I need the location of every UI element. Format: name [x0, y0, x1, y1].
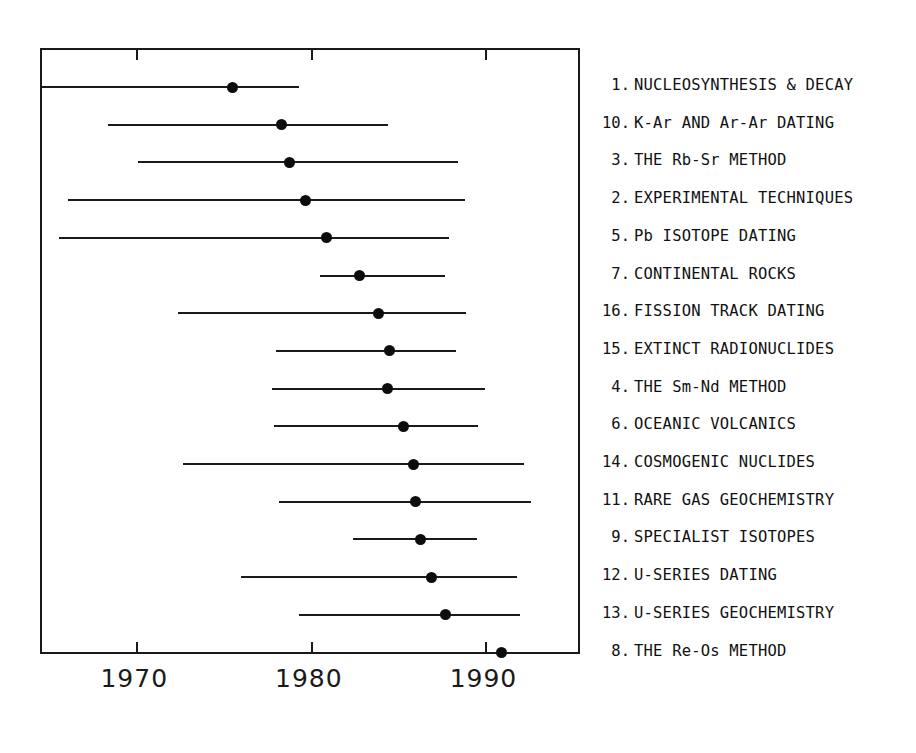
- range-whisker: [68, 199, 464, 201]
- plot-area: [42, 50, 578, 652]
- range-whisker: [276, 350, 456, 352]
- legend-label-row: 14.COSMOGENIC NUCLIDES: [596, 453, 906, 471]
- legend-item-label: EXPERIMENTAL TECHNIQUES: [630, 189, 853, 207]
- legend-item-label: SPECIALIST ISOTOPES: [630, 528, 815, 546]
- legend-item-number: 8.: [596, 642, 630, 660]
- legend-item-label: U-SERIES GEOCHEMISTRY: [630, 604, 834, 622]
- legend-label-row: 6.OCEANIC VOLCANICS: [596, 415, 906, 433]
- legend-item-label: THE Sm-Nd METHOD: [630, 378, 787, 396]
- range-whisker: [274, 425, 478, 427]
- legend-label-row: 9.SPECIALIST ISOTOPES: [596, 528, 906, 546]
- x-axis-tick-label: 1970: [100, 664, 168, 693]
- x-axis-tick: [485, 642, 487, 652]
- median-marker: [384, 345, 395, 356]
- legend-item-number: 14.: [596, 453, 630, 471]
- x-axis-tick-top: [311, 50, 313, 60]
- legend-item-label: Pb ISOTOPE DATING: [630, 227, 796, 245]
- legend-item-number: 13.: [596, 604, 630, 622]
- median-marker: [227, 82, 238, 93]
- range-whisker: [279, 501, 530, 503]
- range-whisker: [138, 161, 458, 163]
- x-axis-tick-label: 1990: [450, 664, 518, 693]
- median-marker: [398, 421, 409, 432]
- median-marker: [354, 270, 365, 281]
- legend-label-row: 4.THE Sm-Nd METHOD: [596, 378, 906, 396]
- legend-label-row: 5.Pb ISOTOPE DATING: [596, 227, 906, 245]
- legend-item-number: 12.: [596, 566, 630, 584]
- legend-label-row: 8.THE Re-Os METHOD: [596, 642, 906, 660]
- legend-item-number: 1.: [596, 76, 630, 94]
- range-whisker: [183, 463, 523, 465]
- legend-label-row: 1.NUCLEOSYNTHESIS & DECAY: [596, 76, 906, 94]
- range-whisker: [272, 388, 485, 390]
- legend-label-row: 2.EXPERIMENTAL TECHNIQUES: [596, 189, 906, 207]
- legend-item-label: CONTINENTAL ROCKS: [630, 265, 796, 283]
- range-whisker: [416, 652, 543, 654]
- median-marker: [276, 119, 287, 130]
- legend-item-number: 11.: [596, 491, 630, 509]
- legend-item-number: 10.: [596, 114, 630, 132]
- legend-label-row: 7.CONTINENTAL ROCKS: [596, 265, 906, 283]
- legend-label-row: 13.U-SERIES GEOCHEMISTRY: [596, 604, 906, 622]
- median-marker: [426, 572, 437, 583]
- x-axis-tick: [311, 642, 313, 652]
- range-whisker: [320, 275, 446, 277]
- range-whisker: [59, 237, 448, 239]
- plot-frame: [40, 48, 580, 654]
- median-marker: [415, 534, 426, 545]
- legend-item-number: 6.: [596, 415, 630, 433]
- median-marker: [410, 496, 421, 507]
- legend-item-number: 4.: [596, 378, 630, 396]
- legend-item-label: NUCLEOSYNTHESIS & DECAY: [630, 76, 853, 94]
- median-marker: [408, 459, 419, 470]
- median-marker: [440, 609, 451, 620]
- chart-legend-labels: 1.NUCLEOSYNTHESIS & DECAY10.K-Ar AND Ar-…: [596, 48, 906, 654]
- legend-item-label: RARE GAS GEOCHEMISTRY: [630, 491, 834, 509]
- x-axis-tick: [136, 642, 138, 652]
- median-marker: [321, 232, 332, 243]
- range-whisker: [178, 312, 466, 314]
- legend-item-number: 2.: [596, 189, 630, 207]
- legend-label-row: 12.U-SERIES DATING: [596, 566, 906, 584]
- median-marker: [284, 157, 295, 168]
- range-whisker: [299, 614, 521, 616]
- legend-label-row: 10.K-Ar AND Ar-Ar DATING: [596, 114, 906, 132]
- legend-item-number: 16.: [596, 302, 630, 320]
- legend-item-label: OCEANIC VOLCANICS: [630, 415, 796, 433]
- legend-item-label: THE Rb-Sr METHOD: [630, 151, 787, 169]
- legend-item-label: THE Re-Os METHOD: [630, 642, 787, 660]
- legend-label-row: 15.EXTINCT RADIONUCLIDES: [596, 340, 906, 358]
- legend-item-number: 9.: [596, 528, 630, 546]
- legend-item-number: 7.: [596, 265, 630, 283]
- median-marker: [300, 195, 311, 206]
- x-axis-tick-top: [136, 50, 138, 60]
- median-marker: [382, 383, 393, 394]
- legend-label-row: 11.RARE GAS GEOCHEMISTRY: [596, 491, 906, 509]
- chart-page: 197019801990 1.NUCLEOSYNTHESIS & DECAY10…: [0, 0, 916, 753]
- range-whisker: [42, 86, 299, 88]
- legend-item-number: 15.: [596, 340, 630, 358]
- legend-item-label: U-SERIES DATING: [630, 566, 777, 584]
- range-whisker: [108, 124, 387, 126]
- legend-label-row: 16.FISSION TRACK DATING: [596, 302, 906, 320]
- legend-item-number: 5.: [596, 227, 630, 245]
- legend-item-label: EXTINCT RADIONUCLIDES: [630, 340, 834, 358]
- legend-item-label: COSMOGENIC NUCLIDES: [630, 453, 815, 471]
- x-axis-tick-top: [485, 50, 487, 60]
- range-whisker: [241, 576, 517, 578]
- x-axis-tick-label: 1980: [275, 664, 343, 693]
- legend-item-label: FISSION TRACK DATING: [630, 302, 825, 320]
- legend-item-number: 3.: [596, 151, 630, 169]
- legend-label-row: 3.THE Rb-Sr METHOD: [596, 151, 906, 169]
- legend-item-label: K-Ar AND Ar-Ar DATING: [630, 114, 834, 132]
- median-marker: [496, 647, 507, 658]
- median-marker: [373, 308, 384, 319]
